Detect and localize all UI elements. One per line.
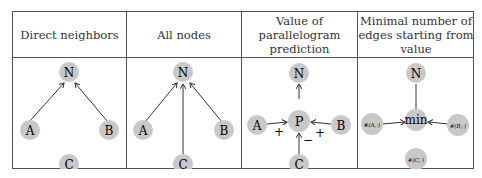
diagram-direct-neighbors: N A B C [13, 58, 126, 169]
sign-b: + [315, 126, 325, 140]
node-c-count: #(C,·) [405, 148, 427, 169]
header-parallelogram: Value of parallelogram prediction [242, 12, 357, 58]
header-minimal-edges: Minimal number of edges starting from va… [358, 12, 474, 58]
svg-text:#(A,·): #(A,·) [364, 122, 380, 128]
svg-text:N: N [64, 66, 75, 80]
svg-text:N: N [178, 66, 189, 80]
svg-text:B: B [337, 119, 346, 133]
node-b: B [331, 115, 351, 135]
node-c: C [173, 154, 193, 169]
node-b-count: #(B,·) [447, 114, 469, 136]
node-n: N [59, 62, 79, 82]
header-text: value [400, 42, 431, 56]
header-text: prediction [270, 42, 330, 56]
header-text: parallelogram [259, 28, 341, 42]
diagram-all-nodes: N A B C [127, 58, 241, 169]
svg-text:A: A [138, 124, 148, 138]
node-a: A [133, 120, 153, 140]
node-a: A [20, 120, 40, 140]
node-c: C [289, 154, 309, 169]
svg-text:C: C [178, 158, 187, 170]
svg-text:C: C [294, 158, 303, 170]
comparison-table: Direct neighbors All nodes Value of para… [12, 11, 474, 169]
diagram-minimal-edges: N min #(A,·) #(B,·) #(C,·) [358, 58, 474, 169]
header-text: edges starting from [358, 28, 473, 42]
header-text: Value of [276, 14, 323, 28]
diagram-parallelogram: N P A B C + + − [242, 58, 357, 169]
node-p: P [288, 110, 310, 132]
header-direct-neighbors: Direct neighbors [13, 12, 126, 58]
node-b: B [214, 120, 234, 140]
svg-text:C: C [64, 158, 73, 170]
node-a-count: #(A,·) [361, 113, 383, 135]
svg-text:B: B [105, 124, 114, 138]
svg-text:P: P [295, 114, 304, 129]
svg-text:B: B [220, 124, 229, 138]
sign-a: + [274, 125, 284, 139]
header-all-nodes: All nodes [127, 12, 241, 58]
node-n: N [289, 63, 309, 83]
node-a: A [247, 115, 267, 135]
svg-text:N: N [411, 67, 422, 81]
sign-c: − [303, 133, 313, 147]
node-c: C [59, 154, 79, 169]
svg-text:A: A [25, 124, 35, 138]
svg-text:A: A [252, 119, 262, 133]
node-min: min [405, 109, 428, 131]
node-b: B [99, 120, 119, 140]
svg-text:N: N [294, 67, 305, 81]
svg-text:#(B,·): #(B,·) [450, 123, 466, 129]
node-n: N [406, 63, 426, 83]
header-text: Minimal number of [360, 14, 472, 28]
header-text: All nodes [157, 28, 211, 42]
node-n: N [173, 62, 193, 82]
svg-text:#(C,·): #(C,·) [408, 157, 424, 163]
svg-text:min: min [405, 113, 428, 127]
header-text: Direct neighbors [20, 28, 118, 42]
